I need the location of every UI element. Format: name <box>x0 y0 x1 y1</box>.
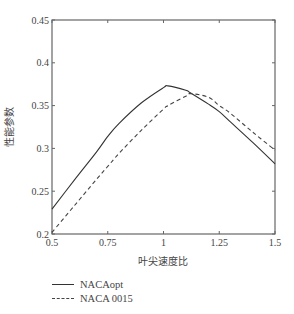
legend: NACAopt NACA 0015 <box>52 277 133 305</box>
line-chart: 0.50.7511.251.5 0.20.250.30.350.40.45 叶尖… <box>0 0 294 270</box>
y-tick-label: 0.3 <box>37 143 50 154</box>
x-tick-label: 1.5 <box>269 237 282 248</box>
legend-label: NACA 0015 <box>80 293 133 304</box>
solid-line-swatch-icon <box>52 284 74 285</box>
series-line-naca0015 <box>52 94 275 233</box>
dashed-line-swatch-icon <box>52 298 74 299</box>
y-axis-ticks: 0.20.250.30.350.40.45 <box>32 15 276 240</box>
y-tick-label: 0.35 <box>32 100 50 111</box>
y-tick-label: 0.25 <box>32 186 50 197</box>
x-tick-label: 1.25 <box>211 237 229 248</box>
legend-item-nacaopt: NACAopt <box>52 277 133 291</box>
legend-label: NACAopt <box>80 279 123 290</box>
series-line-nacaopt <box>52 86 275 210</box>
legend-item-naca0015: NACA 0015 <box>52 291 133 305</box>
x-axis-ticks: 0.50.7511.251.5 <box>46 20 282 248</box>
y-axis-label: 性能参数 <box>3 107 15 147</box>
x-tick-label: 0.75 <box>99 237 117 248</box>
y-tick-label: 0.4 <box>37 57 50 68</box>
x-axis-label: 叶尖速度比 <box>138 255 188 267</box>
x-tick-label: 1 <box>161 237 166 248</box>
series-lines <box>52 86 275 233</box>
y-tick-label: 0.45 <box>32 15 50 26</box>
y-tick-label: 0.2 <box>37 229 50 240</box>
plot-frame <box>52 20 275 234</box>
